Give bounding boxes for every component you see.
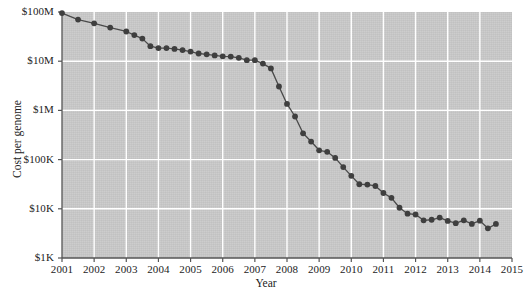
- y-tick-label: $10K: [0, 202, 54, 214]
- y-tick-label: $1K: [0, 251, 54, 263]
- y-tick-label: $1M: [0, 103, 54, 115]
- x-axis-title: Year: [0, 277, 532, 289]
- x-tick-label: 2015: [492, 263, 532, 275]
- chart-canvas: [0, 0, 532, 300]
- y-tick-label: $10M: [0, 54, 54, 66]
- data-series-line: [62, 13, 496, 228]
- y-axis-title: Cost per genome: [11, 89, 23, 189]
- y-tick-label: $100M: [0, 5, 54, 17]
- y-tick-label: $100K: [0, 153, 54, 165]
- data-series-markers: [59, 10, 499, 231]
- chart-figure: $100M$10M$1M$100K$10K$1K 200120022003200…: [0, 0, 532, 300]
